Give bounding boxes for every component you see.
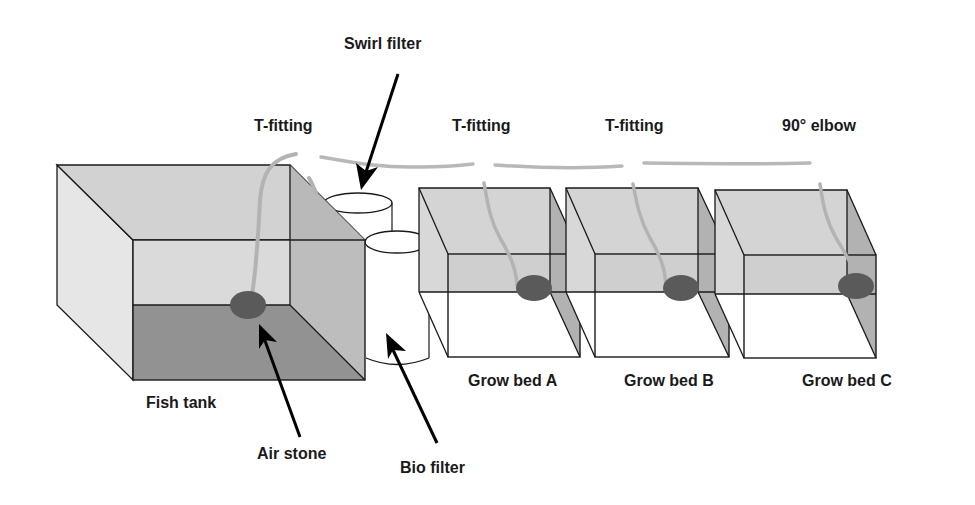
label-grow-bed-a: Grow bed A (468, 372, 558, 389)
label-grow-bed-b: Grow bed B (624, 372, 714, 389)
label-fish-tank: Fish tank (146, 394, 216, 411)
air-stone-fish-tank (230, 291, 266, 319)
label-air-stone: Air stone (257, 445, 326, 462)
label-swirl-filter: Swirl filter (344, 35, 421, 52)
main-air-line (321, 157, 810, 168)
swirl-filter-arrow-icon (356, 74, 398, 190)
grow-bed-b (566, 184, 729, 357)
label-90-elbow: 90° elbow (782, 117, 857, 134)
air-stone-bed-a (516, 275, 552, 301)
grow-bed-a (419, 183, 580, 357)
bio-filter-arrow-icon (393, 350, 437, 443)
air-stone-bed-b (663, 275, 699, 301)
label-t-fitting-2: T-fitting (452, 117, 511, 134)
air-stone-bed-c (838, 273, 874, 299)
label-bio-filter: Bio filter (400, 459, 465, 476)
label-grow-bed-c: Grow bed C (802, 372, 892, 389)
grow-bed-c (715, 184, 876, 358)
fish-tank (57, 165, 365, 380)
label-t-fitting-3: T-fitting (605, 117, 664, 134)
label-t-fitting-1: T-fitting (254, 117, 313, 134)
aquaponics-diagram: Swirl filter T-fitting T-fitting T-fitti… (0, 0, 975, 505)
